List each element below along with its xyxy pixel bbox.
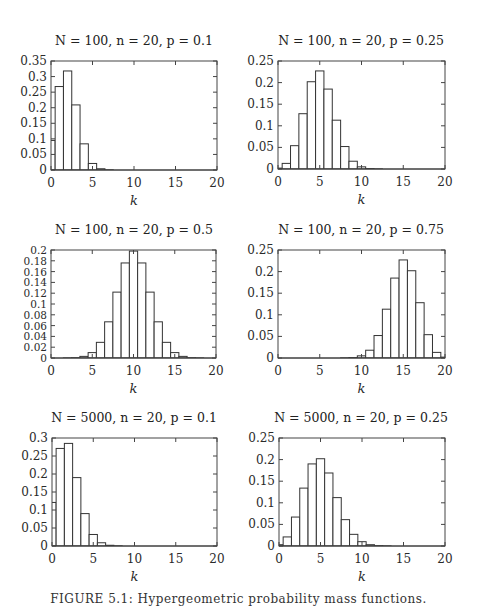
y-tick-label: 0.15 [21, 485, 48, 499]
y-tick-label: 0.3 [29, 431, 48, 445]
x-tick-label: 0 [47, 176, 55, 190]
y-tick-label: 0.2 [29, 467, 48, 481]
histogram-panel: 0510152000.050.10.150.20.25k [248, 431, 452, 584]
y-tick-label: 0.25 [247, 243, 274, 257]
y-tick-label: 0.25 [20, 85, 47, 99]
x-tick-label: 15 [168, 552, 183, 566]
y-tick-label: 0.02 [24, 341, 47, 353]
y-tick-label: 0.2 [30, 244, 47, 256]
x-tick-label: 5 [89, 552, 97, 566]
bar [307, 82, 315, 169]
x-axis-label: k [130, 381, 138, 396]
y-tick-label: 0.1 [256, 496, 275, 510]
y-tick-label: 0.16 [24, 266, 48, 278]
histogram-panel: 0510152000.050.10.150.20.250.30.35k [20, 54, 224, 208]
bar [96, 342, 104, 358]
bar [113, 292, 121, 358]
bars [63, 251, 203, 358]
x-tick-label: 5 [316, 364, 324, 378]
bars [48, 443, 122, 546]
y-tick-label: 0.1 [255, 308, 274, 322]
bar [55, 87, 63, 170]
y-tick-label: 0.2 [255, 76, 274, 90]
y-tick-label: 0 [40, 539, 48, 553]
y-tick-label: 0 [39, 163, 47, 177]
y-tick-label: 0.06 [24, 320, 48, 332]
y-tick-label: 0.05 [248, 517, 275, 531]
bar [80, 144, 88, 170]
bars [47, 71, 113, 170]
figure-caption: FIGURE 5.1: Hypergeometric probability m… [0, 592, 477, 606]
x-axis-label: k [358, 569, 366, 584]
y-tick-label: 0.1 [29, 503, 48, 517]
histogram-panel: 0510152000.050.10.150.20.25k [247, 243, 452, 396]
y-tick-label: 0.05 [21, 521, 48, 535]
x-tick-label: 20 [437, 552, 452, 566]
bar [349, 161, 357, 169]
bar [162, 342, 170, 358]
x-tick-label: 10 [354, 552, 369, 566]
bars [275, 459, 391, 546]
bar [154, 322, 162, 358]
bar [407, 271, 415, 358]
y-tick-label: 0.14 [24, 276, 48, 288]
y-tick-label: 0.25 [21, 449, 48, 463]
x-tick-label: 0 [48, 552, 56, 566]
x-tick-label: 20 [437, 175, 452, 189]
y-tick-label: 0 [266, 162, 274, 176]
x-axis-label: k [131, 569, 139, 584]
x-tick-label: 0 [274, 175, 282, 189]
bar [121, 263, 129, 358]
y-tick-label: 0.18 [24, 255, 47, 267]
bar [308, 464, 316, 546]
y-tick-label: 0.1 [30, 298, 47, 310]
bar [291, 146, 299, 169]
x-axis-label: k [358, 381, 366, 396]
bar [382, 309, 390, 358]
bar [73, 478, 81, 546]
x-tick-label: 15 [167, 364, 182, 378]
bar [374, 336, 382, 358]
x-tick-label: 0 [47, 364, 55, 378]
bar [324, 89, 332, 169]
bar [316, 459, 324, 546]
bar [341, 520, 349, 546]
y-tick-label: 0 [266, 351, 274, 365]
x-tick-label: 20 [208, 364, 223, 378]
y-tick-label: 0 [40, 352, 47, 364]
x-tick-label: 20 [437, 364, 452, 378]
bar [332, 120, 340, 169]
bar [350, 534, 358, 546]
y-tick-label: 0 [267, 539, 275, 553]
x-tick-label: 0 [275, 552, 283, 566]
bar [316, 71, 324, 169]
x-tick-label: 10 [127, 552, 142, 566]
x-tick-label: 5 [88, 364, 96, 378]
x-axis-label: k [130, 193, 138, 208]
bar [399, 260, 407, 358]
bar [282, 163, 290, 169]
y-tick-label: 0.3 [28, 70, 47, 84]
bar [366, 350, 374, 358]
x-tick-label: 10 [354, 364, 369, 378]
y-tick-label: 0.05 [20, 147, 47, 161]
y-tick-label: 0.25 [247, 54, 274, 68]
x-tick-label: 10 [126, 364, 141, 378]
bar [138, 263, 146, 358]
y-tick-label: 0.04 [24, 330, 48, 342]
x-tick-label: 20 [209, 552, 224, 566]
bar [424, 335, 432, 358]
x-tick-label: 15 [396, 364, 411, 378]
y-tick-label: 0.15 [247, 97, 274, 111]
y-tick-label: 0.12 [24, 287, 47, 299]
x-tick-label: 0 [274, 364, 282, 378]
y-tick-label: 0.08 [24, 309, 47, 321]
x-tick-label: 15 [396, 175, 411, 189]
y-tick-label: 0.15 [20, 116, 47, 130]
bar [146, 292, 154, 358]
x-tick-label: 15 [396, 552, 411, 566]
x-tick-label: 20 [209, 176, 224, 190]
histogram-panel: 0510152000.050.10.150.20.25k [247, 54, 452, 207]
bar [291, 517, 299, 546]
